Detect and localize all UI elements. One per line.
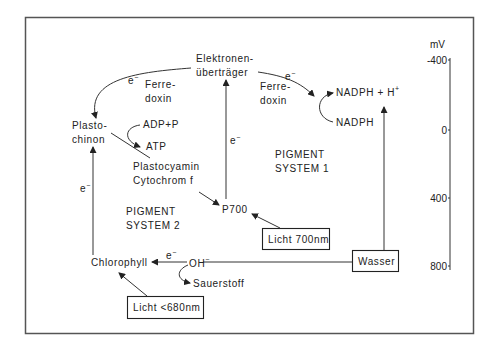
nadph-label: NADPH <box>336 117 374 128</box>
licht-680-label: Licht <680nm <box>133 302 201 313</box>
tick-label-minus400: -400 <box>427 55 447 66</box>
oh-label: OH− <box>189 256 210 269</box>
cytochrom-label: Cytochrom f <box>133 175 194 186</box>
tick-label-0: 0 <box>441 125 447 136</box>
adp-p-label: ADP+P <box>143 119 179 130</box>
elektronen-label-1: Elektronen- <box>196 53 254 64</box>
arrow-to-plastochinon <box>95 68 191 118</box>
nadph-h-label: NADPH + H+ <box>336 85 400 98</box>
licht-700-label: Licht 700nm <box>268 234 329 245</box>
arrow-licht-to-chlorophyll <box>119 273 147 296</box>
pigment-system-1-label-a: PIGMENT <box>275 149 325 160</box>
nadph-cycle-arrow <box>320 93 334 122</box>
sauerstoff-label: Sauerstoff <box>193 278 244 289</box>
pigment-system-2-label-a: PIGMENT <box>126 206 176 217</box>
plastochinon-label-2: chinon <box>72 134 105 145</box>
elektronen-label-2: überträger <box>196 67 248 78</box>
ferredoxin-left-2: doxin <box>145 93 172 104</box>
arrow-to-p700 <box>199 192 219 205</box>
electron-label: e− <box>166 249 177 261</box>
plastochinon-label-1: Plasto- <box>72 120 107 131</box>
plastochinon-to-cytochrom-line <box>111 133 150 158</box>
tick-label-800: 800 <box>430 261 447 272</box>
p700-label: P700 <box>222 204 248 215</box>
pigment-system-2-label-b: SYSTEM 2 <box>126 220 180 231</box>
atp-label: ATP <box>146 141 167 152</box>
ferredoxin-right-2: doxin <box>260 95 287 106</box>
arrow-licht-to-p700 <box>252 214 280 228</box>
wasser-label: Wasser <box>358 256 395 267</box>
atp-cycle-arrow <box>128 125 140 147</box>
photosynthesis-diagram: mV -400 0 400 800 Elektronen- überträger… <box>0 0 496 351</box>
electron-label: e− <box>230 134 241 146</box>
pigment-system-1-label-b: SYSTEM 1 <box>275 163 329 174</box>
unit-label: mV <box>430 39 445 50</box>
tick-label-400: 400 <box>430 193 447 204</box>
electron-label: e− <box>80 182 91 194</box>
plastocyamin-label: Plastocyamin <box>133 161 200 172</box>
ferredoxin-left-1: Ferre- <box>145 79 176 90</box>
ferredoxin-right-1: Ferre- <box>260 81 291 92</box>
electron-label: e− <box>128 74 139 86</box>
chlorophyll-label: Chlorophyll <box>91 257 148 268</box>
